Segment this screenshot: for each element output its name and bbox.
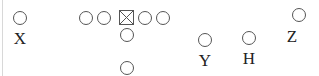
left-tackle-circle	[79, 11, 93, 25]
player-y-label: Y	[199, 52, 211, 69]
player-h-circle	[242, 31, 256, 45]
player-x-label: X	[14, 30, 26, 47]
running-back-circle	[120, 61, 134, 75]
center-square-icon	[119, 10, 134, 25]
player-h-label: H	[243, 50, 255, 67]
formation-diagram: X Y H Z	[0, 0, 319, 76]
right-tackle-circle	[156, 11, 170, 25]
right-guard-circle	[138, 11, 152, 25]
left-guard-circle	[97, 11, 111, 25]
player-z-circle	[292, 8, 306, 22]
left-border	[2, 0, 3, 76]
player-x-circle	[13, 11, 27, 25]
player-y-circle	[198, 33, 212, 47]
player-z-label: Z	[287, 28, 297, 45]
quarterback-circle	[120, 28, 134, 42]
